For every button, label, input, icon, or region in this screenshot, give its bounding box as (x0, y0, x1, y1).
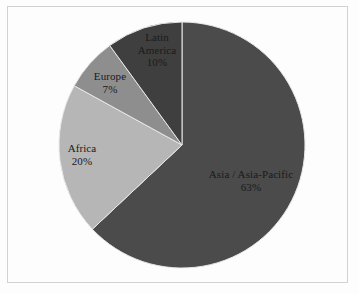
pie-label-latin-name-line2: America (127, 44, 187, 57)
pie-label-africa-name: Africa (47, 142, 117, 155)
pie-label-asia-value: 63% (196, 181, 306, 194)
pie-label-latin-america: Latin America 10% (127, 31, 187, 69)
pie-label-africa: Africa 20% (47, 142, 117, 167)
pie-chart-page: Asia / Asia-Pacific 63% Africa 20% Europ… (0, 0, 359, 293)
pie-label-europe-value: 7% (79, 83, 141, 96)
pie-label-asia-name: Asia / Asia-Pacific (196, 168, 306, 181)
pie-label-africa-value: 20% (47, 155, 117, 168)
pie-label-latin-value: 10% (127, 56, 187, 69)
pie-label-europe: Europe 7% (79, 70, 141, 95)
pie-label-asia-asia-pacific: Asia / Asia-Pacific 63% (196, 168, 306, 193)
pie-label-latin-name-line1: Latin (127, 31, 187, 44)
pie-chart: Asia / Asia-Pacific 63% Africa 20% Europ… (0, 0, 359, 293)
pie-label-europe-name: Europe (79, 70, 141, 83)
